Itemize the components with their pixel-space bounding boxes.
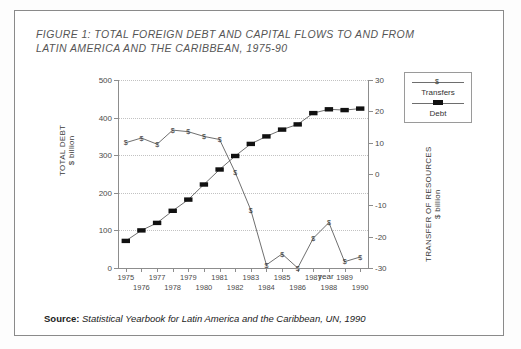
left-axis-title-line1: TOTAL DEBT <box>58 125 67 176</box>
data-point-debt <box>340 108 348 112</box>
data-point-debt <box>215 167 223 171</box>
left-axis-tick-label: 400 <box>99 113 112 122</box>
chart-legend: $ Transfers Debt <box>404 72 472 123</box>
data-point-debt <box>356 106 364 110</box>
left-axis-tick-label: 300 <box>99 151 112 160</box>
data-point-transfers: $ <box>202 133 206 140</box>
right-axis-tick-label: 0 <box>375 170 379 179</box>
dollar-sign-icon: $ <box>435 78 439 85</box>
legend-entry-transfers: $ <box>407 78 469 87</box>
figure-page: FIGURE 1: TOTAL FOREIGN DEBT AND CAPITAL… <box>0 0 521 349</box>
x-axis-tick-label: 1990 <box>352 283 369 292</box>
data-point-transfers: $ <box>155 141 159 148</box>
data-point-transfers: $ <box>233 169 237 176</box>
figure-title: FIGURE 1: TOTAL FOREIGN DEBT AND CAPITAL… <box>36 27 456 55</box>
source-text: Statistical Yearbook for Latin America a… <box>82 313 366 324</box>
x-axis-tick-label: 1975 <box>117 273 134 282</box>
right-axis-tick-label: -20 <box>375 232 387 241</box>
x-axis-tick-label: 1976 <box>133 283 150 292</box>
legend-entry-debt <box>407 99 469 108</box>
data-point-transfers: $ <box>218 136 222 143</box>
source-caption: Source: Statistical Yearbook for Latin A… <box>44 313 366 324</box>
data-point-debt <box>325 107 333 111</box>
x-axis-tick-label: 1981 <box>211 273 228 282</box>
legend-label-transfers: Transfers <box>407 88 469 97</box>
filled-square-icon <box>433 100 443 105</box>
data-point-debt <box>231 154 239 158</box>
data-point-transfers: $ <box>311 235 315 242</box>
data-point-debt <box>184 197 192 201</box>
x-axis-tick-label: 1986 <box>289 283 306 292</box>
right-axis-tick-label: -10 <box>375 201 387 210</box>
left-axis-title: TOTAL DEBT $ billion <box>58 125 76 176</box>
plot-area: 0100200300400500 3020100-10-20-30 $$$$$$… <box>118 80 368 268</box>
right-axis-tick-label: 10 <box>375 138 384 147</box>
data-point-transfers: $ <box>358 254 362 261</box>
data-point-transfers: $ <box>280 251 284 258</box>
data-point-transfers: $ <box>249 207 253 214</box>
x-axis-line <box>118 268 369 269</box>
legend-label-debt: Debt <box>407 109 469 118</box>
x-axis-tick-label: 1987 <box>305 273 322 282</box>
data-point-debt <box>294 122 302 126</box>
left-axis-tick-label: 100 <box>99 226 112 235</box>
left-axis-line <box>118 80 119 268</box>
series-line-transfers <box>126 130 360 268</box>
left-axis-title-line2: $ billion <box>67 125 76 176</box>
x-axis-tick-label: 1980 <box>196 283 213 292</box>
right-axis-tick-label: 20 <box>375 107 384 116</box>
right-axis-line <box>368 80 369 268</box>
data-point-debt <box>278 127 286 131</box>
data-point-debt <box>262 134 270 138</box>
data-point-transfers: $ <box>171 127 175 134</box>
series-layer: $$$$$$$$$$$$$$$$ <box>118 80 368 268</box>
x-axis-tick-label: 1989 <box>336 273 353 282</box>
x-axis-tick-label: 1977 <box>149 273 166 282</box>
left-axis-tick-label: 500 <box>99 76 112 85</box>
left-axis-tick-label: 200 <box>99 188 112 197</box>
data-point-transfers: $ <box>327 219 331 226</box>
data-point-transfers: $ <box>343 258 347 265</box>
right-axis-tick-label: 30 <box>375 76 384 85</box>
x-axis-tick-label: 1984 <box>258 283 275 292</box>
x-axis-tick-label: 1982 <box>227 283 244 292</box>
x-axis-tick-label: 1978 <box>164 283 181 292</box>
data-point-transfers: $ <box>139 135 143 142</box>
right-axis-title-line2: $ billion <box>433 146 442 262</box>
right-axis-tick-label: -30 <box>375 264 387 273</box>
x-axis-tick-label: 1979 <box>180 273 197 282</box>
x-axis-tick-label: 1985 <box>274 273 291 282</box>
right-axis-title: TRANSFER OF RESOURCES $ billion <box>424 146 442 262</box>
source-label: Source: <box>44 313 79 324</box>
data-point-debt <box>247 142 255 146</box>
data-point-transfers: $ <box>124 139 128 146</box>
right-axis-title-line1: TRANSFER OF RESOURCES <box>424 146 433 262</box>
figure-title-line2: LATIN AMERICA AND THE CARIBBEAN, 1975-90 <box>36 41 456 55</box>
data-point-debt <box>137 228 145 232</box>
x-axis-tick-label: 1988 <box>321 283 338 292</box>
data-point-debt <box>200 182 208 186</box>
data-point-debt <box>122 239 130 243</box>
x-axis-tick-label: 1983 <box>242 273 259 282</box>
data-point-debt <box>169 209 177 213</box>
left-axis-tick-label: 0 <box>108 264 112 273</box>
data-point-transfers: $ <box>186 128 190 135</box>
figure-title-line1: FIGURE 1: TOTAL FOREIGN DEBT AND CAPITAL… <box>36 27 456 41</box>
data-point-debt <box>153 221 161 225</box>
data-point-debt <box>309 111 317 115</box>
